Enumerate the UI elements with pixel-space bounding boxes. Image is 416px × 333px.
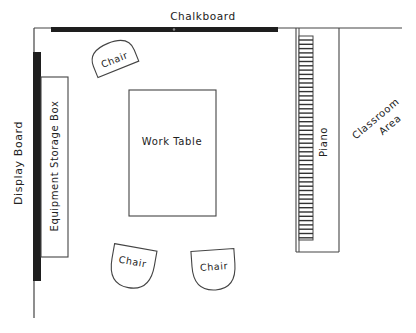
chair-1: Chair	[87, 35, 138, 77]
chair-2: Chair	[107, 244, 156, 292]
piano-keyboard	[299, 36, 313, 240]
work-table	[129, 90, 216, 216]
piano-label: Piano	[318, 127, 329, 157]
chair-3: Chair	[191, 249, 237, 292]
floor-plan: Chalkboard Display Board Equipment Stora…	[0, 0, 416, 333]
piano-keys	[299, 40, 313, 238]
chalkboard-bar	[51, 27, 278, 32]
equipment-storage-box-label: Equipment Storage Box	[49, 101, 60, 232]
chalkboard-mark	[173, 28, 175, 30]
classroom-area-label: Classroom Area	[350, 96, 410, 152]
chair-3-label: Chair	[200, 260, 229, 273]
chalkboard-label: Chalkboard	[170, 10, 236, 22]
work-table-label: Work Table	[142, 136, 202, 147]
display-board-bar	[33, 52, 41, 281]
display-board-label: Display Board	[12, 121, 25, 205]
